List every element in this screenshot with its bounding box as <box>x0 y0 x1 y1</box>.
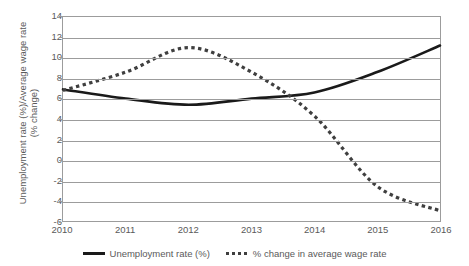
series-line <box>63 46 440 105</box>
gridline <box>63 120 440 121</box>
gridline <box>63 38 440 39</box>
gridline <box>63 79 440 80</box>
x-tick-label: 2010 <box>42 224 82 236</box>
x-tick-label: 2016 <box>421 224 461 236</box>
legend-item-label: % change in average wage rate <box>253 248 387 259</box>
legend-solid-line-icon <box>83 252 105 255</box>
legend-dotted-line-icon <box>226 252 248 255</box>
legend-item-label: Unemployment rate (%) <box>110 248 210 259</box>
gridline <box>63 182 440 183</box>
legend-item[interactable]: Unemployment rate (%) <box>83 248 210 259</box>
plot-series-layer <box>63 17 440 221</box>
line-chart: Unemployment rate (%)/Average wage rate … <box>0 0 469 266</box>
series-line <box>63 48 440 211</box>
legend-item[interactable]: % change in average wage rate <box>226 248 387 259</box>
gridline <box>63 99 440 100</box>
x-axis-labels: 2010201120122013201420152016 <box>62 224 441 240</box>
x-tick-label: 2013 <box>232 224 272 236</box>
gridline <box>63 141 440 142</box>
x-tick-label: 2012 <box>168 224 208 236</box>
gridline <box>63 202 440 203</box>
y-axis-title-line-1: Unemployment rate (%)/Average wage rate <box>17 22 29 205</box>
gridline <box>63 161 440 162</box>
x-tick-label: 2014 <box>295 224 335 236</box>
y-axis-ticks: -6-4-202468101214 <box>34 16 62 222</box>
plot-area <box>62 16 441 222</box>
y-tick-mark <box>59 222 62 223</box>
x-tick-label: 2015 <box>358 224 398 236</box>
x-tick-label: 2011 <box>105 224 145 236</box>
chart-legend: Unemployment rate (%)% change in average… <box>0 243 469 263</box>
gridline <box>63 58 440 59</box>
